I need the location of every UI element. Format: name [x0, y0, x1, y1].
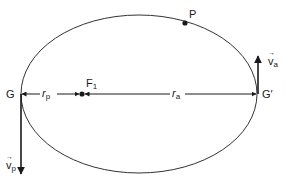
point-p-dot — [182, 20, 187, 25]
va-subscript: a — [274, 60, 278, 69]
focus-label: F1 — [86, 78, 97, 89]
point-p-label: P — [189, 9, 196, 20]
ra-subscript: a — [176, 92, 180, 101]
rp-subscript: p — [46, 92, 50, 101]
va-letter: v — [268, 56, 274, 67]
rp-label: rp — [42, 88, 50, 99]
ra-label: ra — [172, 88, 180, 99]
focus-letter: F — [86, 77, 93, 89]
focus-subscript: 1 — [93, 82, 97, 91]
focus-dot — [79, 91, 84, 96]
va-label: va — [268, 56, 278, 67]
vp-subscript: p — [12, 164, 16, 173]
apogee-label: G′ — [262, 89, 273, 100]
vp-label: vp — [6, 160, 16, 171]
vp-letter: v — [6, 160, 12, 171]
perigee-label: G — [6, 89, 15, 100]
